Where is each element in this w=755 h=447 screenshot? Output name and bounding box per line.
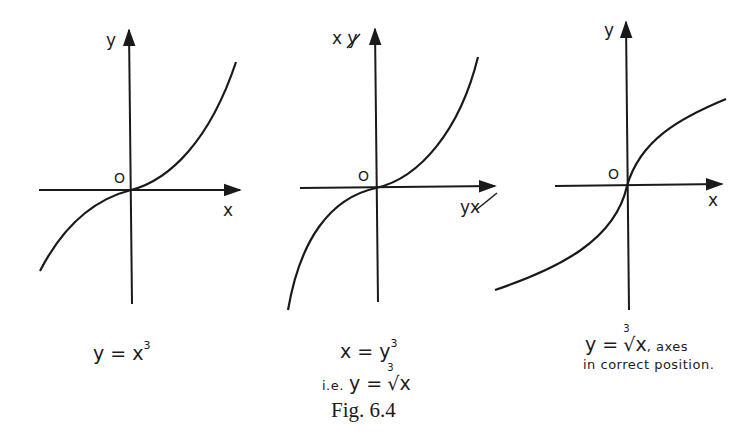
cube-root-symbol: 3√x — [387, 372, 410, 394]
y-axis — [375, 29, 378, 302]
panel-2-note: i.e. y = 3√x — [322, 372, 411, 394]
panel-3-origin-label: O — [608, 166, 619, 182]
note-prefix: i.e. — [322, 378, 344, 393]
panel-2-equation: x = y3 — [340, 340, 398, 362]
y-axis — [129, 30, 132, 304]
curve-cube-root — [495, 99, 726, 290]
equation-text: y = — [585, 333, 618, 355]
curve-cubic-swapped — [288, 57, 478, 310]
panel-2-x-label: yx — [460, 197, 480, 217]
equation-suffix: , axes — [647, 339, 688, 354]
panel-1-x-label: x — [223, 200, 233, 220]
panel-3-x-label: x — [708, 190, 718, 210]
equation-exponent: 3 — [391, 337, 398, 350]
root-index: 3 — [623, 323, 629, 334]
axis-label-struck: x — [470, 197, 480, 217]
equation-text: x = y — [340, 340, 391, 362]
figure-caption: Fig. 6.4 — [331, 398, 396, 423]
y-axis — [626, 22, 629, 310]
panel-2-y-label: x y — [332, 28, 358, 48]
note-equation: y = — [349, 372, 382, 394]
x-axis — [300, 186, 495, 188]
x-axis — [555, 184, 722, 186]
cube-root-symbol: 3√x — [623, 333, 646, 355]
curve-cubic — [40, 62, 236, 271]
root-radicand: x — [399, 372, 410, 394]
root-radicand: x — [635, 333, 646, 355]
equation-text: y = x — [93, 342, 144, 364]
axis-label-new: y — [460, 197, 470, 217]
panel-1-y-label: y — [106, 30, 116, 50]
equation-exponent: 3 — [144, 339, 151, 352]
axis-label-new: x — [332, 28, 342, 48]
panel-3-y-label: y — [604, 20, 614, 40]
panel-2-graph — [288, 29, 497, 310]
panel-3-note: in correct position. — [583, 357, 714, 372]
panel-2-origin-label: O — [358, 168, 369, 184]
axis-label-struck: y — [347, 28, 357, 48]
panel-1-graph — [39, 30, 240, 304]
panel-1-origin-label: O — [114, 170, 125, 186]
root-index: 3 — [387, 362, 393, 373]
panel-3-equation: y = 3√x, axes — [585, 333, 688, 355]
panel-1-equation: y = x3 — [93, 342, 151, 364]
